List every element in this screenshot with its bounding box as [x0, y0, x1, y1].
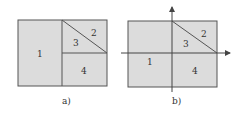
region-label-4: 4 [81, 66, 87, 76]
caption-b: b) [172, 96, 181, 106]
region-label-2: 2 [201, 29, 207, 39]
region-label-3: 3 [183, 39, 189, 49]
caption-a: a) [62, 96, 71, 106]
figure: 1 2 3 4 a) 1 2 3 4 b) [0, 0, 241, 114]
region-label-3: 3 [73, 38, 79, 48]
region-label-4: 4 [192, 66, 198, 76]
region-label-1: 1 [147, 57, 153, 67]
diagram-b: 1 2 3 4 b) [121, 7, 230, 106]
diagram-a: 1 2 3 4 a) [18, 20, 107, 106]
region-label-1: 1 [37, 49, 43, 59]
region-label-2: 2 [91, 28, 97, 38]
